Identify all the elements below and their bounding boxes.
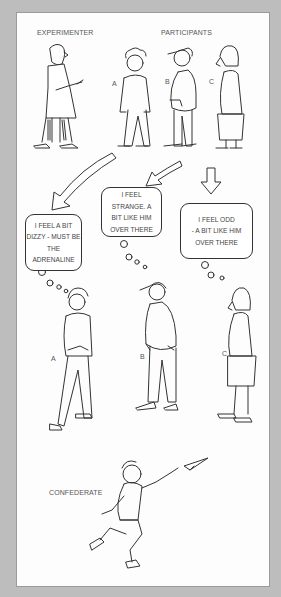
thought-c-line-3: OVER THERE — [192, 237, 242, 249]
thought-a-line-2: DIZZY - MUST BE — [27, 231, 81, 243]
participant-a-bottom-letter: A — [51, 355, 56, 362]
experimenter-figure — [34, 44, 83, 148]
participant-c-top-letter: C — [209, 78, 214, 85]
thought-bubble-c: I FEEL ODD - A BIT LIKE HIM OVER THERE — [180, 203, 253, 259]
thought-b-line-4: OVER THERE — [110, 224, 153, 236]
line-drawing — [0, 0, 281, 597]
participant-b-top-figure — [164, 48, 196, 146]
confederate-figure — [90, 458, 208, 568]
arrow-to-c — [201, 168, 221, 194]
participant-a-bottom-figure — [50, 288, 92, 430]
participant-a-top-letter: A — [112, 80, 117, 87]
thought-b-line-3: BIT LIKE HIM — [110, 212, 153, 224]
participant-b-bottom-figure — [136, 282, 178, 410]
participants-label: PARTICIPANTS — [161, 29, 212, 36]
participant-a-top-figure — [118, 48, 150, 146]
participant-c-bottom-letter: C — [222, 350, 227, 357]
participant-b-top-letter: B — [165, 78, 170, 85]
arrow-to-b — [146, 161, 182, 186]
participant-b-bottom-letter: B — [140, 353, 145, 360]
thought-bubble-a: I FEEL A BIT DIZZY - MUST BE THE ADRENAL… — [25, 214, 82, 271]
thought-c-line-1: I FEEL ODD — [192, 214, 242, 226]
thought-a-line-4: ADRENALINE — [27, 254, 81, 266]
thought-b-line-2: STRANGE. A — [110, 201, 153, 213]
thought-a-line-1: I FEEL A BIT — [27, 220, 81, 232]
experimenter-label: EXPERIMENTER — [37, 29, 93, 36]
thought-c-line-2: - A BIT LIKE HIM — [192, 225, 242, 237]
thought-b-line-1: I FEEL — [110, 189, 153, 201]
thought-dots-c — [202, 262, 225, 281]
thought-a-line-3: THE — [27, 243, 81, 255]
thought-dots-a — [39, 269, 68, 293]
confederate-label: CONFEDERATE — [49, 489, 102, 496]
participant-c-top-figure — [216, 46, 244, 148]
thought-bubble-b: I FEEL STRANGE. A BIT LIKE HIM OVER THER… — [101, 187, 162, 237]
thought-dots-b — [121, 241, 147, 269]
